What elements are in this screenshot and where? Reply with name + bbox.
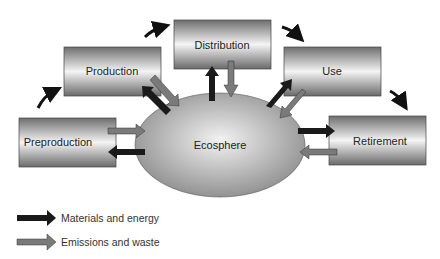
stage-distribution: Distribution [174, 20, 271, 69]
legend-materials-label: Materials and energy [61, 212, 159, 224]
curved-arrow-icon [390, 91, 403, 103]
stage-preproduction: Preproduction [19, 118, 116, 167]
curved-arrow-icon [38, 91, 54, 108]
svg-text:Retirement: Retirement [353, 135, 407, 147]
svg-text:Distribution: Distribution [194, 39, 249, 51]
svg-text:Production: Production [86, 65, 139, 77]
stage-use: Use [284, 47, 381, 96]
svg-text:Use: Use [322, 65, 342, 77]
legend-materials-arrow-icon [17, 210, 56, 226]
ecosphere-label: Ecosphere [194, 139, 247, 151]
legend-emissions-arrow-icon [17, 234, 56, 250]
svg-text:Preproduction: Preproduction [24, 136, 93, 148]
stage-retirement: Retirement [329, 116, 426, 165]
curved-arrow-icon [145, 27, 162, 37]
curved-arrow-icon [282, 27, 298, 36]
legend-emissions-label: Emissions and waste [61, 236, 160, 248]
